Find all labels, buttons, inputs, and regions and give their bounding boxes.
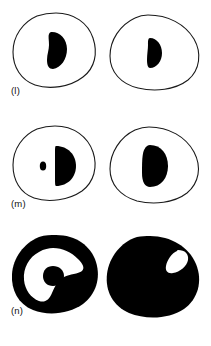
inclusion-small-dot-m-left [40, 161, 46, 170]
panel-row-m: (m) [0, 113, 211, 228]
panel-m-graphic [0, 113, 211, 228]
cross-section-outline-m-left [13, 126, 95, 200]
panel-n-graphic [0, 226, 211, 346]
panel-l-graphic [0, 0, 211, 115]
figure-root: (l) (m) (n [0, 0, 211, 346]
panel-label-n: (n) [11, 306, 23, 316]
inclusion-inner-black-blob-n-left [43, 266, 64, 286]
panel-row-n: (n) [0, 226, 211, 341]
panel-label-l: (l) [11, 86, 20, 96]
panel-row-l: (l) [0, 0, 211, 115]
panel-label-m: (m) [11, 199, 26, 209]
cross-section-body-n-right [107, 236, 199, 318]
